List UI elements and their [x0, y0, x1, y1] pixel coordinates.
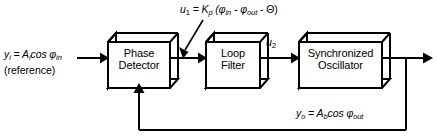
- input-signal-equation: yi = Aicos φin: [4, 49, 62, 60]
- input-reference-label: (reference): [4, 65, 55, 76]
- loop-filter-label-line2: Filter: [206, 60, 260, 72]
- wire-lf-to-osc: [260, 53, 300, 64]
- synchronized-oscillator-label-line2: Oscillator: [299, 60, 382, 72]
- pll-block-diagram: yi = Aicos φin (reference) u1 = Kp (φin …: [0, 0, 437, 138]
- u1-equation: u1 = Kp (φin - φout - Θ): [180, 4, 278, 15]
- input-wire: [77, 53, 109, 64]
- u1-leader-arrow: [179, 20, 203, 59]
- output-signal-equation: yo = Abcos φout: [296, 108, 363, 119]
- loop-filter-label: Loop Filter: [206, 48, 260, 72]
- phase-detector-label-line2: Detector: [108, 60, 170, 72]
- wire-pd-to-lf: [170, 53, 207, 64]
- synchronized-oscillator-label: Synchronized Oscillator: [299, 48, 382, 72]
- phase-detector-label: Phase Detector: [108, 48, 170, 72]
- u2-label: u2: [266, 37, 276, 48]
